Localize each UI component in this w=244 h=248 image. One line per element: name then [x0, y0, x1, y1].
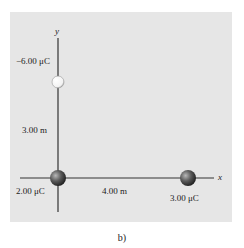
y-axis-label: y: [55, 26, 59, 36]
horizontal-distance-label: 4.00 m: [102, 186, 127, 196]
charge-3uC: [180, 170, 196, 186]
charge-negative-6uC: [52, 76, 64, 88]
charge-2uC-origin: [50, 170, 66, 186]
charge-label-top: −6.00 μC: [16, 56, 50, 66]
figure-caption: b): [0, 232, 244, 243]
x-axis-label: x: [218, 172, 222, 182]
charge-label-origin: 2.00 μC: [16, 186, 45, 196]
charge-label-right: 3.00 μC: [170, 193, 199, 203]
charge-diagram: [0, 0, 244, 248]
vertical-distance-label: 3.00 m: [22, 125, 47, 135]
